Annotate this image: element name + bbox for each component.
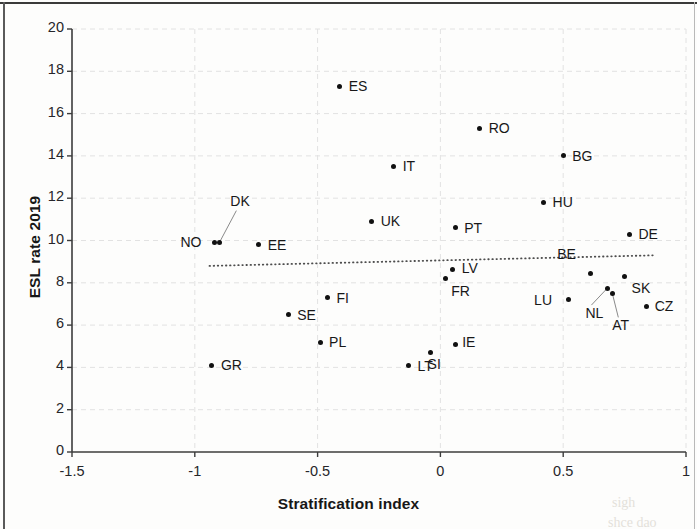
figure-container: GRNODKSEEEFIPLESUKITLTSIIEFRLVPTROHUBGLU… bbox=[0, 0, 697, 529]
data-label-hu: HU bbox=[553, 194, 573, 210]
data-label-cz: CZ bbox=[655, 298, 674, 314]
data-label-es: ES bbox=[349, 78, 368, 94]
data-label-fi: FI bbox=[336, 290, 348, 306]
scan-artifact-1: sigh bbox=[612, 495, 635, 511]
data-label-fr: FR bbox=[451, 283, 470, 299]
gridlines bbox=[72, 29, 686, 452]
y-tick-label: 20 bbox=[28, 19, 64, 35]
y-tick-label: 18 bbox=[28, 61, 64, 77]
data-label-ro: RO bbox=[489, 120, 510, 136]
data-point-lu[interactable] bbox=[566, 297, 571, 302]
data-label-bg: BG bbox=[572, 148, 592, 164]
data-label-de: DE bbox=[639, 226, 658, 242]
x-tick-label: 0 bbox=[410, 463, 470, 479]
data-label-pl: PL bbox=[329, 334, 346, 350]
data-label-ie: IE bbox=[462, 334, 475, 350]
data-point-de[interactable] bbox=[627, 232, 632, 237]
data-point-hu[interactable] bbox=[541, 200, 546, 205]
data-point-lv[interactable] bbox=[450, 267, 455, 272]
x-tick-label: 1 bbox=[656, 463, 697, 479]
data-label-gr: GR bbox=[221, 357, 242, 373]
x-tick-label: 0.5 bbox=[533, 463, 593, 479]
data-label-pt: PT bbox=[464, 220, 482, 236]
data-point-cz[interactable] bbox=[644, 304, 649, 309]
trendline bbox=[210, 255, 655, 266]
scan-artifact-2: shce dao bbox=[608, 515, 657, 529]
x-tick-label: -1 bbox=[165, 463, 225, 479]
data-point-fr[interactable] bbox=[443, 276, 448, 281]
data-point-nl[interactable] bbox=[605, 286, 610, 291]
data-point-at[interactable] bbox=[610, 291, 615, 296]
data-label-it: IT bbox=[403, 158, 415, 174]
data-label-si: SI bbox=[428, 356, 441, 372]
data-label-at: AT bbox=[612, 317, 629, 333]
data-label-ee: EE bbox=[268, 237, 287, 253]
data-point-es[interactable] bbox=[337, 84, 342, 89]
data-label-sk: SK bbox=[632, 280, 651, 296]
x-axis-title: Stratification index bbox=[0, 495, 697, 513]
data-point-fi[interactable] bbox=[325, 295, 330, 300]
data-label-no: NO bbox=[180, 234, 201, 250]
data-label-dk: DK bbox=[230, 193, 249, 209]
data-point-ie[interactable] bbox=[453, 342, 458, 347]
data-point-se[interactable] bbox=[286, 312, 291, 317]
data-label-se: SE bbox=[297, 307, 316, 323]
y-axis-title: ESL rate 2019 bbox=[26, 117, 44, 377]
data-point-pt[interactable] bbox=[453, 225, 458, 230]
y-tick-label: 0 bbox=[28, 442, 64, 458]
data-label-nl: NL bbox=[585, 305, 603, 321]
y-tick-label: 2 bbox=[28, 400, 64, 416]
plot-area: GRNODKSEEEFIPLESUKITLTSIIEFRLVPTROHUBGLU… bbox=[0, 0, 697, 529]
data-label-lu: LU bbox=[534, 292, 552, 308]
data-label-uk: UK bbox=[381, 213, 400, 229]
x-tick-label: -0.5 bbox=[288, 463, 348, 479]
data-label-be: BE bbox=[557, 246, 576, 262]
data-point-dk[interactable] bbox=[217, 240, 222, 245]
data-label-lv: LV bbox=[462, 260, 478, 276]
data-point-lt[interactable] bbox=[406, 363, 411, 368]
data-point-be[interactable] bbox=[588, 271, 593, 276]
tick-marks bbox=[67, 29, 686, 457]
data-point-pl[interactable] bbox=[318, 340, 323, 345]
x-tick-label: -1.5 bbox=[42, 463, 102, 479]
